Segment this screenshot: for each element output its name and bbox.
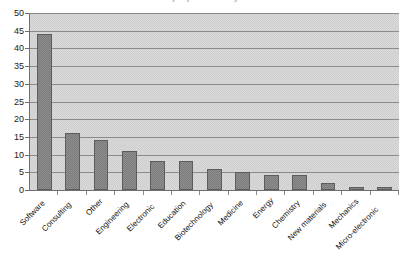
x-tick-mark (143, 191, 144, 195)
x-tick-label: Software (18, 198, 47, 227)
x-tick-mark (398, 191, 399, 195)
x-tick-mark (228, 191, 229, 195)
x-tick-mark (341, 191, 342, 195)
x-tick-mark (86, 191, 87, 195)
x-tick-mark (114, 191, 115, 195)
x-axis: SoftwareConsultingOtherEngineeringElectr… (0, 0, 412, 256)
x-tick-label: Energy (251, 197, 275, 221)
x-tick-mark (284, 191, 285, 195)
x-tick-mark (57, 191, 58, 195)
x-tick-label: Other (84, 197, 105, 218)
x-tick-mark (370, 191, 371, 195)
x-tick-mark (171, 191, 172, 195)
x-tick-mark (256, 191, 257, 195)
bar-chart: Start-ups per activity sector 0510152025… (0, 0, 412, 256)
x-tick-mark (313, 191, 314, 195)
x-tick-mark (199, 191, 200, 195)
x-tick-label: Medicine (216, 198, 245, 227)
